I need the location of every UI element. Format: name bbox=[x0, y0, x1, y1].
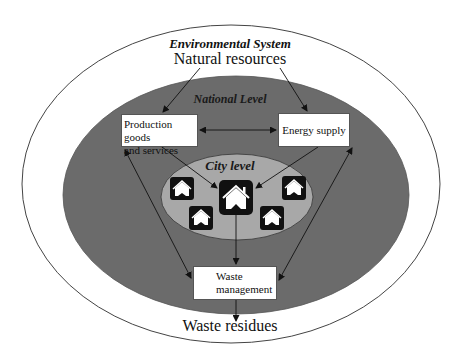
waste-line1: Waste bbox=[216, 270, 276, 283]
production-goods-box: Production goods and services bbox=[121, 114, 198, 147]
production-line2: and services bbox=[124, 144, 195, 157]
house-icon-top-left bbox=[170, 177, 194, 200]
energy-supply-label: Energy supply bbox=[282, 124, 346, 137]
house-icon-center bbox=[219, 180, 253, 215]
house-icon-top-right bbox=[282, 176, 306, 200]
house-icon-bottom-left bbox=[189, 206, 213, 230]
city-level-title: City level bbox=[0, 158, 460, 174]
waste-line2: management bbox=[216, 283, 276, 296]
natural-resources-label: Natural resources bbox=[0, 50, 460, 68]
waste-residues-label: Waste residues bbox=[0, 317, 460, 335]
production-line1: Production goods bbox=[124, 118, 195, 144]
house-icon-bottom-right bbox=[260, 206, 284, 230]
waste-management-box: Waste management bbox=[193, 266, 277, 300]
national-level-title: National Level bbox=[0, 92, 460, 107]
environmental-system-diagram: Environmental System Natural resources N… bbox=[0, 0, 460, 358]
energy-supply-box: Energy supply bbox=[278, 113, 350, 147]
